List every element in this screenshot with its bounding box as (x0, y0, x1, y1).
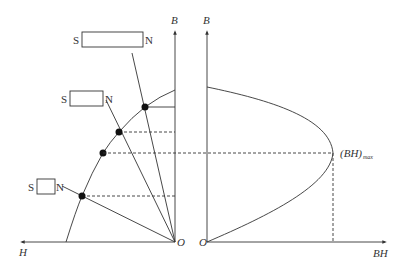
load-line-medium (106, 100, 175, 242)
magnet-medium: S N (61, 91, 113, 106)
left-origin-label: O (177, 236, 185, 248)
operating-point-1 (142, 104, 149, 111)
north-pole-label: N (145, 34, 153, 46)
bhmax-subscript: max (363, 154, 373, 160)
bh-axis-label: BH (373, 247, 389, 259)
energy-product-curve (207, 87, 333, 242)
load-line-long (132, 53, 175, 242)
south-pole-label: S (28, 181, 34, 193)
south-pole-label: S (61, 93, 67, 105)
h-axis-label: H (18, 246, 28, 258)
north-pole-label: N (56, 181, 64, 193)
right-b-axis-label: B (203, 14, 210, 26)
magnet-short: S N (28, 179, 64, 194)
operating-point-2 (116, 129, 123, 136)
north-pole-label: N (105, 93, 113, 105)
left-b-axis-label: B (171, 14, 178, 26)
operating-point-3 (79, 193, 86, 200)
magnet-long: S N (73, 32, 153, 47)
right-panel: B O BH (BH) max (199, 14, 389, 259)
demagnetization-curve (66, 90, 175, 242)
left-panel: S N S N S N H B O (18, 14, 185, 258)
bhmax-label: (BH) (340, 147, 362, 160)
south-pole-label: S (73, 34, 79, 46)
magnet-bh-diagram: S N S N S N H B O B O BH (BH) max (0, 0, 405, 274)
right-origin-label: O (199, 236, 207, 248)
